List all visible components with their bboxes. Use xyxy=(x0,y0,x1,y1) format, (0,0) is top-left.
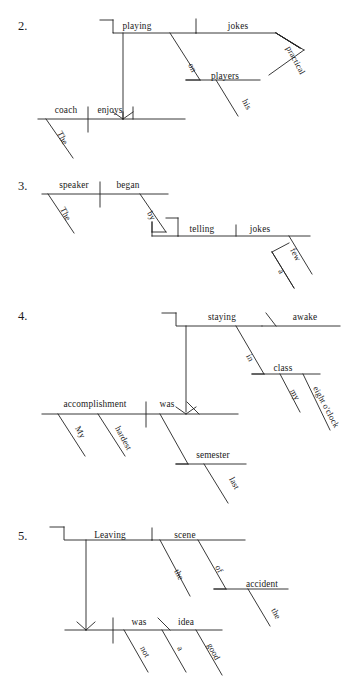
diagram-stroke xyxy=(248,589,270,626)
diagram-stroke xyxy=(162,630,186,672)
diagram-stroke xyxy=(86,622,95,630)
word-staying: staying xyxy=(208,312,236,322)
word-few: few xyxy=(288,246,303,263)
diagram-stroke xyxy=(77,622,86,630)
word-my: my xyxy=(288,387,302,402)
exercise-number: 5. xyxy=(18,529,27,543)
diagram-stroke xyxy=(186,407,196,414)
word-the-scene: the xyxy=(172,567,186,581)
word-Leaving: Leaving xyxy=(94,530,126,540)
word-players: players xyxy=(211,71,239,81)
word-accomplishment: accomplishment xyxy=(63,399,126,409)
word-was: was xyxy=(160,399,175,409)
word-the-accident: the xyxy=(269,606,283,620)
word-in: in xyxy=(244,352,256,363)
word-accident: accident xyxy=(246,579,278,589)
word-not: not xyxy=(138,644,152,659)
word-awake: awake xyxy=(293,312,318,322)
word-The: The xyxy=(58,205,73,222)
exercise-number: 3. xyxy=(18,179,27,193)
diagram-stroke xyxy=(160,540,190,596)
word-playing: playing xyxy=(123,21,152,31)
diagram-stroke xyxy=(266,313,276,326)
sentence-diagram-canvas: 2.playingjokespracticalonplayershiscoach… xyxy=(0,0,353,690)
diagram-stroke xyxy=(160,414,188,464)
word-a: a xyxy=(175,644,186,652)
worksheet-page: 2.playingjokespracticalonplayershiscoach… xyxy=(0,0,353,690)
word-scene: scene xyxy=(174,530,195,540)
word-good: good xyxy=(205,641,222,662)
word-My: My xyxy=(73,424,88,440)
word-The: The xyxy=(55,129,70,146)
word-was: was xyxy=(132,617,147,627)
diagram-stroke xyxy=(176,407,186,414)
word-jokes: jokes xyxy=(227,21,249,31)
word-coach: coach xyxy=(55,105,78,115)
diagram-stroke xyxy=(123,112,133,119)
item-5: 5.Leavingscenetheofaccidentthewasideanot… xyxy=(18,527,288,675)
diagram-stroke xyxy=(204,464,228,503)
diagram-stroke xyxy=(170,33,200,80)
exercise-number: 2. xyxy=(18,19,27,33)
word-semester: semester xyxy=(196,450,230,460)
diagram-stroke xyxy=(216,80,238,116)
exercise-number: 4. xyxy=(18,309,27,323)
word-practical: practical xyxy=(284,44,308,76)
word-hardest: hardest xyxy=(113,424,134,452)
word-on: on xyxy=(186,61,199,74)
word-of: of xyxy=(213,563,225,574)
diagram-stroke xyxy=(158,618,170,630)
word-last: last xyxy=(227,475,242,491)
diagram-stroke xyxy=(272,243,289,252)
word-speaker: speaker xyxy=(59,180,89,190)
word-enjoys: enjoys xyxy=(97,105,122,115)
word-class: class xyxy=(274,363,293,373)
word-by: by xyxy=(145,209,158,222)
word-his: his xyxy=(240,97,254,111)
word-telling: telling xyxy=(190,224,215,234)
word-jokes: jokes xyxy=(249,224,271,234)
word-began: began xyxy=(117,180,140,190)
word-idea: idea xyxy=(178,617,194,627)
diagram-stroke xyxy=(236,326,264,374)
item-2: 2.playingjokespracticalonplayershiscoach… xyxy=(18,19,308,158)
item-3: 3.speakerbeganThebytellingjokesfewa xyxy=(18,179,312,288)
item-4: 4.stayingawakeinclassmyeight o'clockacco… xyxy=(18,309,342,503)
